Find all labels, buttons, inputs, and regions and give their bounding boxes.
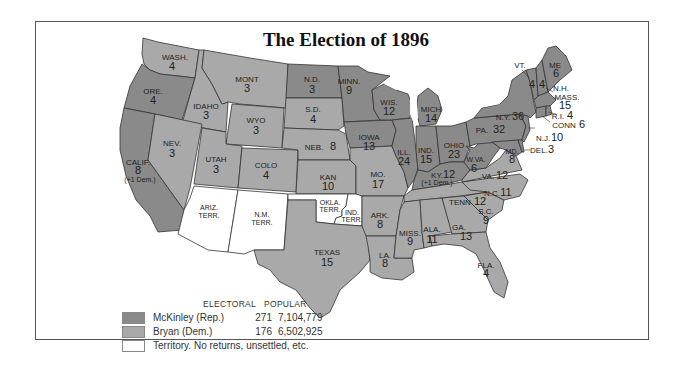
svg-text:8: 8 bbox=[135, 164, 141, 176]
svg-text:23: 23 bbox=[448, 148, 460, 160]
svg-text:3: 3 bbox=[203, 109, 209, 121]
svg-text:PA.: PA. bbox=[476, 126, 488, 135]
svg-text:4: 4 bbox=[263, 169, 269, 181]
svg-text:14: 14 bbox=[425, 112, 437, 124]
svg-text:VT.: VT. bbox=[514, 61, 526, 70]
svg-text:12: 12 bbox=[496, 169, 508, 181]
svg-text:15: 15 bbox=[420, 153, 432, 165]
legend-name: Bryan (Dem.) bbox=[153, 326, 212, 337]
svg-text:NEB.: NEB. bbox=[305, 143, 324, 152]
legend-row-bryan: Bryan (Dem.) 176 6,502,925 bbox=[122, 326, 382, 339]
svg-text:3: 3 bbox=[548, 143, 554, 155]
svg-text:4: 4 bbox=[567, 109, 573, 121]
legend-swatch-territory bbox=[122, 340, 145, 352]
svg-text:OKLA.: OKLA. bbox=[320, 199, 341, 206]
svg-text:4: 4 bbox=[310, 113, 316, 125]
svg-text:R.I.: R.I. bbox=[552, 112, 564, 121]
svg-text:CONN: CONN bbox=[552, 121, 576, 130]
svg-text:9: 9 bbox=[346, 84, 352, 96]
state-ny bbox=[474, 70, 536, 118]
svg-text:32: 32 bbox=[493, 123, 505, 135]
lake-superior bbox=[384, 72, 440, 90]
legend-popular: 6,502,925 bbox=[278, 326, 323, 337]
svg-text:ARIZ.: ARIZ. bbox=[200, 204, 218, 211]
svg-text:4: 4 bbox=[483, 267, 489, 279]
svg-text:8: 8 bbox=[330, 140, 336, 152]
svg-text:6: 6 bbox=[553, 67, 559, 79]
svg-text:11: 11 bbox=[500, 186, 511, 198]
svg-text:N.H.: N.H. bbox=[553, 84, 569, 93]
svg-text:10: 10 bbox=[322, 180, 334, 192]
state-conn bbox=[536, 106, 546, 118]
legend-electoral: 176 bbox=[247, 326, 272, 337]
svg-text:N.C.: N.C. bbox=[484, 189, 500, 198]
svg-text:3: 3 bbox=[244, 82, 250, 94]
svg-text:36: 36 bbox=[512, 110, 524, 122]
svg-text:6: 6 bbox=[471, 162, 477, 174]
legend-swatch-democrat bbox=[122, 326, 145, 338]
legend-row-mckinley: McKinley (Rep.) 271 7,104,779 bbox=[122, 312, 382, 325]
svg-text:12: 12 bbox=[383, 105, 395, 117]
svg-text:TERR.: TERR. bbox=[342, 216, 363, 223]
svg-text:3: 3 bbox=[213, 163, 219, 175]
svg-text:TENN: TENN bbox=[449, 198, 471, 207]
svg-text:TERR.: TERR. bbox=[199, 212, 220, 219]
svg-text:17: 17 bbox=[372, 178, 384, 190]
legend-name: Territory. No returns, unsettled, etc. bbox=[153, 340, 308, 351]
svg-text:TERR.: TERR. bbox=[252, 219, 273, 226]
svg-text:TERR.: TERR. bbox=[320, 206, 341, 213]
svg-text:VA.: VA. bbox=[482, 172, 494, 181]
svg-text:N.Y.: N.Y. bbox=[496, 113, 511, 122]
svg-text:4: 4 bbox=[169, 60, 175, 72]
legend-electoral: 271 bbox=[247, 312, 272, 323]
svg-text:9: 9 bbox=[407, 235, 413, 247]
svg-text:3: 3 bbox=[169, 147, 175, 159]
svg-text:4: 4 bbox=[150, 94, 156, 106]
svg-text:4: 4 bbox=[529, 78, 535, 90]
svg-text:8: 8 bbox=[382, 257, 388, 269]
svg-text:24: 24 bbox=[398, 155, 410, 167]
svg-text:3: 3 bbox=[253, 124, 259, 136]
legend-swatch-republican bbox=[122, 312, 145, 324]
legend-row-territory: Territory. No returns, unsettled, etc. bbox=[122, 340, 382, 353]
legend-name: McKinley (Rep.) bbox=[153, 312, 224, 323]
svg-text:3: 3 bbox=[309, 83, 315, 95]
svg-text:8: 8 bbox=[509, 153, 515, 165]
svg-text:N.M.: N.M. bbox=[255, 211, 270, 218]
svg-text:15: 15 bbox=[321, 256, 333, 268]
svg-text:8: 8 bbox=[377, 218, 383, 230]
svg-text:4: 4 bbox=[539, 78, 545, 90]
svg-text:IND.: IND. bbox=[345, 209, 359, 216]
svg-text:10: 10 bbox=[551, 131, 563, 143]
svg-text:13: 13 bbox=[363, 140, 375, 152]
svg-text:11: 11 bbox=[426, 233, 437, 245]
svg-text:DEL.: DEL. bbox=[530, 146, 548, 155]
legend-header-electoral: ELECTORAL bbox=[203, 299, 256, 309]
svg-text:13: 13 bbox=[460, 230, 472, 242]
legend-popular: 7,104,779 bbox=[278, 312, 323, 323]
svg-text:(+1 Dem.): (+1 Dem.) bbox=[124, 176, 155, 184]
legend-header-popular: POPULAR bbox=[264, 299, 307, 309]
svg-text:(+1 Dem.): (+1 Dem.) bbox=[421, 179, 452, 187]
svg-text:N.J.: N.J. bbox=[536, 134, 550, 143]
svg-text:9: 9 bbox=[483, 214, 489, 226]
svg-text:6: 6 bbox=[579, 118, 585, 130]
